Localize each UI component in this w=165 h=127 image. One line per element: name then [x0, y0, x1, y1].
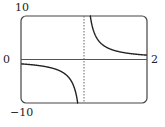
x-min-tick-label: 0	[3, 54, 10, 65]
y-max-tick-label: 10	[15, 2, 29, 13]
y-min-tick-label: −10	[10, 107, 33, 118]
x-max-tick-label: 2	[151, 54, 158, 65]
curve-right-branch	[90, 16, 147, 55]
curve-left-branch	[21, 64, 78, 103]
